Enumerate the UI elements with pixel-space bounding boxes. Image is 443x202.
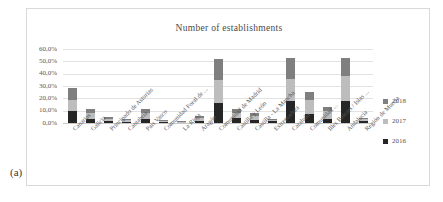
bar-column[interactable] [68,49,77,123]
y-axis-tick-label: 0,0% [0,120,57,127]
legend-swatch-icon [383,119,388,124]
bar-segment-2018[interactable] [68,88,77,100]
bar-segment-2018[interactable] [286,58,295,79]
chart-legend: 201820172016 [383,97,431,157]
y-axis-tick-label: 60,0% [0,46,57,53]
legend-swatch-icon [383,139,388,144]
legend-item-2018[interactable]: 2018 [383,97,431,105]
chart-title: Number of establishments [27,23,431,33]
bar-segment-2017[interactable] [341,76,350,101]
chart-container: Number of establishments 0,0%10,0%20,0%3… [26,8,430,186]
plot-area: 0,0%10,0%20,0%30,0%40,0%50,0%60,0% Canar… [63,49,373,123]
y-axis-tick-label: 10,0% [0,107,57,114]
y-axis-tick-label: 30,0% [0,83,57,90]
y-axis-tick-label: 20,0% [0,95,57,102]
bar-column[interactable] [104,49,113,123]
bar-segment-2017[interactable] [214,80,223,103]
y-axis-tick-label: 50,0% [0,58,57,65]
bar-segment-2017[interactable] [68,100,77,111]
y-axis-tick-label: 40,0% [0,70,57,77]
figure-panel: Number of establishments 0,0%10,0%20,0%3… [0,0,443,202]
panel-label: (a) [10,166,22,178]
legend-swatch-icon [383,99,388,104]
legend-label: 2017 [392,117,406,125]
legend-label: 2016 [392,137,406,145]
bar-segment-2018[interactable] [305,92,314,101]
legend-label: 2018 [392,97,406,105]
legend-item-2016[interactable]: 2016 [383,137,431,145]
bar-segment-2018[interactable] [341,58,350,77]
bar-segment-2018[interactable] [214,59,223,80]
legend-item-2017[interactable]: 2017 [383,117,431,125]
bar-column[interactable] [214,49,223,123]
